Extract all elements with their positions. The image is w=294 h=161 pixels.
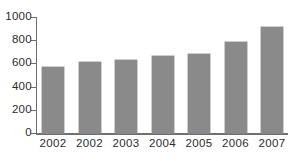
y-axis-tick-label: 600 (0, 57, 32, 69)
y-axis-tick-label: 800 (0, 34, 32, 46)
x-axis-line (36, 133, 288, 135)
y-axis-tick-label: 1000 (0, 11, 32, 23)
bar (42, 67, 64, 133)
bar (261, 27, 283, 133)
bar (225, 42, 247, 133)
y-axis-tick-label: 0 (0, 127, 32, 139)
bar (115, 60, 137, 133)
bar (79, 62, 101, 133)
x-axis-tick-label: 2007 (250, 138, 294, 150)
plot-area (37, 17, 287, 133)
y-axis-tick-label: 400 (0, 81, 32, 93)
y-axis-tick-label: 200 (0, 104, 32, 116)
bar (152, 56, 174, 133)
bar (188, 54, 210, 133)
bar-chart: 02004006008001000 2002200220032004200520… (0, 0, 294, 161)
